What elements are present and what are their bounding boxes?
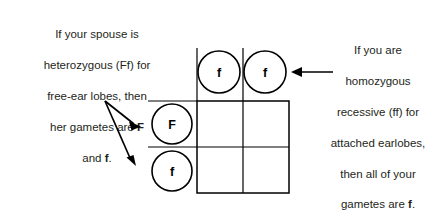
- arrow-to-row-f-head: [127, 155, 137, 166]
- arrow-to-row-f-shaft: [105, 101, 130, 158]
- arrow-to-column-gametes-head: [291, 67, 302, 77]
- row-gamete-label-1: F: [168, 118, 176, 132]
- arrow-to-row-F-head: [129, 122, 141, 131]
- punnett-square-graphics: f f F f: [0, 0, 448, 213]
- punnett-square-diagram: If your spouse is heterozygous (Ff) for …: [0, 0, 448, 213]
